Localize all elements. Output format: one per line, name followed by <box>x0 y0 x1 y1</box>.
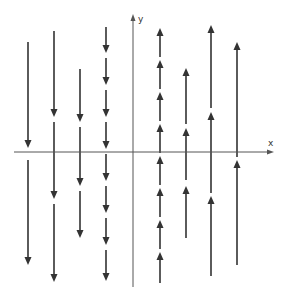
arrowhead-up-icon <box>183 186 190 194</box>
arrowhead-up-icon <box>157 156 164 164</box>
vector-field-diagram: x y <box>0 0 286 297</box>
axes: x y <box>14 14 274 287</box>
y-axis-label: y <box>138 14 144 24</box>
arrowhead-down-icon <box>103 109 110 117</box>
vector-column-7 <box>208 25 215 276</box>
vector-column-3 <box>77 69 84 238</box>
arrowhead-up-icon <box>183 128 190 136</box>
arrowhead-down-icon <box>103 205 110 213</box>
arrowhead-up-icon <box>157 252 164 260</box>
arrowhead-up-icon <box>157 28 164 36</box>
arrowhead-down-icon <box>25 257 32 265</box>
vector-column-8 <box>234 42 241 265</box>
arrowhead-down-icon <box>103 77 110 85</box>
arrowhead-down-icon <box>51 274 58 282</box>
arrowhead-down-icon <box>103 237 110 245</box>
arrowhead-down-icon <box>77 178 84 186</box>
arrowhead-down-icon <box>25 140 32 148</box>
arrowhead-up-icon <box>157 92 164 100</box>
arrowhead-up-icon <box>157 220 164 228</box>
arrowhead-down-icon <box>77 230 84 238</box>
vector-column-6 <box>183 68 190 238</box>
arrowhead-up-icon <box>157 124 164 132</box>
arrowhead-up-icon <box>208 196 215 204</box>
arrowhead-up-icon <box>208 112 215 120</box>
arrowhead-down-icon <box>103 173 110 181</box>
arrowhead-down-icon <box>103 141 110 149</box>
y-axis-arrowhead <box>131 14 136 21</box>
x-axis-arrowhead <box>267 150 274 155</box>
arrowhead-up-icon <box>234 160 241 168</box>
arrowhead-down-icon <box>77 114 84 122</box>
arrowhead-up-icon <box>208 25 215 33</box>
arrowhead-down-icon <box>51 191 58 199</box>
arrowhead-down-icon <box>103 273 110 281</box>
arrowhead-up-icon <box>183 68 190 76</box>
arrowhead-up-icon <box>234 42 241 50</box>
x-axis-label: x <box>268 138 274 148</box>
vector-column-1 <box>25 42 32 265</box>
vector-column-5 <box>157 28 164 283</box>
vector-column-4 <box>103 27 110 281</box>
arrowhead-up-icon <box>157 188 164 196</box>
vector-column-2 <box>51 31 58 282</box>
arrowhead-down-icon <box>51 109 58 117</box>
arrowhead-down-icon <box>103 45 110 53</box>
arrowhead-up-icon <box>157 60 164 68</box>
